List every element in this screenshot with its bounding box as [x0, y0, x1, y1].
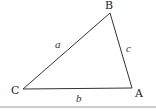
side-label-a: a [55, 38, 61, 50]
side-label-c: c [126, 42, 131, 54]
vertex-label-c: C [11, 84, 19, 97]
vertex-label-b: B [105, 0, 113, 12]
side-label-b: b [76, 92, 82, 104]
vertex-label-a: A [134, 87, 144, 100]
triangle-diagram: B C A a b c [0, 0, 156, 111]
triangle-abc [23, 13, 132, 89]
